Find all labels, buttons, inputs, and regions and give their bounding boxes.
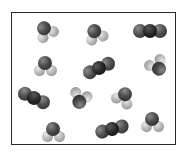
oxygen-atom	[145, 112, 159, 126]
carbon-atom	[143, 24, 157, 38]
oxygen-atom	[38, 56, 52, 70]
oxygen-atom	[46, 122, 60, 136]
